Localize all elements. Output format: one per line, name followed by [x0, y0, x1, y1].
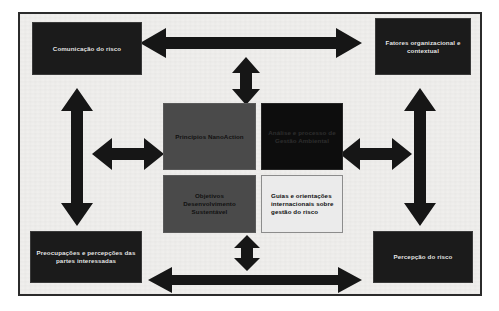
- node-preocupacoes-partes-label: Preocupações e percepções das partes int…: [36, 249, 136, 265]
- diagram-root: Comunicação do risco Fatores organizacio…: [0, 0, 499, 311]
- node-principios-nanoaction: Princípios NanoAction: [163, 103, 256, 170]
- node-objetivos-desenvolvimento-label: Objetivos Desenvolvimento Sustentável: [169, 192, 250, 215]
- node-percepcao-risco-label: Percepção do risco: [379, 253, 467, 261]
- node-principios-nanoaction-label: Princípios NanoAction: [169, 133, 250, 141]
- node-comunicacao-risco: Comunicação do risco: [32, 22, 142, 75]
- node-comunicacao-risco-label: Comunicação do risco: [38, 45, 136, 53]
- node-guias-orientacoes-label: Guias e orientações internacionais sobre…: [271, 192, 337, 215]
- node-objetivos-desenvolvimento: Objetivos Desenvolvimento Sustentável: [163, 175, 256, 233]
- node-guias-orientacoes: Guias e orientações internacionais sobre…: [261, 175, 343, 233]
- node-preocupacoes-partes: Preocupações e percepções das partes int…: [30, 231, 142, 283]
- node-analise-processo: Análise e processo de Gestão Ambiental: [261, 103, 343, 170]
- node-fatores-organizacional: Fatores organizacional e contextual: [375, 18, 471, 75]
- node-percepcao-risco: Percepção do risco: [373, 231, 473, 283]
- node-fatores-organizacional-label: Fatores organizacional e contextual: [381, 39, 465, 55]
- node-analise-processo-label: Análise e processo de Gestão Ambiental: [267, 129, 337, 145]
